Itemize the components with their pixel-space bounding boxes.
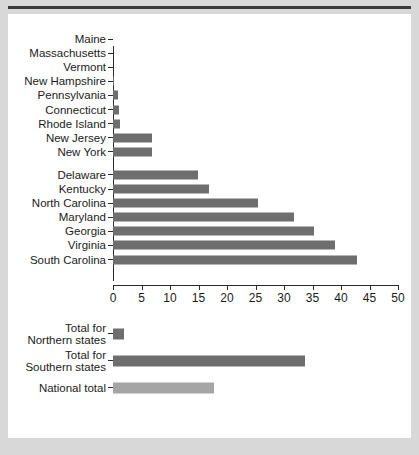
x-axis-tick: [256, 285, 257, 290]
bar-row: Maryland: [113, 210, 398, 224]
category-label: Georgia: [65, 225, 106, 238]
bar-row: South Carolina: [113, 253, 398, 267]
bar-row: Delaware: [113, 168, 398, 182]
totals-plot-area: Total for Northern statesTotal for South…: [113, 314, 398, 414]
x-axis-tick-label: 40: [334, 291, 347, 305]
x-axis-tick: [199, 285, 200, 290]
bar-row: Total for Northern states: [113, 320, 398, 347]
x-axis-tick: [341, 285, 342, 290]
x-axis-tick-label: 5: [138, 291, 145, 305]
value-bar: [113, 199, 258, 208]
x-axis-tick-label: 35: [306, 291, 319, 305]
bar-row: Georgia: [113, 224, 398, 238]
category-label: New Jersey: [46, 131, 106, 144]
x-axis-tick: [170, 285, 171, 290]
value-bar: [113, 328, 124, 339]
states-plot-area: MaineMassachusettsVermontNew HampshirePe…: [113, 28, 398, 280]
x-axis-tick-label: 0: [110, 291, 117, 305]
value-bar: [113, 105, 119, 114]
category-label: North Carolina: [32, 197, 106, 210]
value-bar: [113, 77, 114, 86]
chart-card: MaineMassachusettsVermontNew HampshirePe…: [8, 14, 411, 438]
x-axis-tick-label: 25: [249, 291, 262, 305]
value-bar: [113, 355, 305, 366]
x-axis-tick: [227, 285, 228, 290]
value-bar: [113, 91, 118, 100]
value-bar: [113, 170, 198, 179]
bar-row: Massachusetts: [113, 46, 398, 60]
category-label: Maryland: [59, 211, 106, 224]
bar-row: Virginia: [113, 238, 398, 252]
x-axis-tick: [284, 285, 285, 290]
bar-row: Connecticut: [113, 103, 398, 117]
bar-row: Total for Southern states: [113, 347, 398, 374]
bar-row: Rhode Island: [113, 117, 398, 131]
value-bar: [113, 119, 120, 128]
value-bar: [113, 241, 335, 250]
x-axis-tick: [398, 285, 399, 290]
value-bar: [113, 213, 294, 222]
x-axis-tick-label: 10: [163, 291, 176, 305]
category-label: National total: [39, 381, 106, 394]
value-bar: [113, 133, 152, 142]
category-label: Vermont: [63, 61, 106, 74]
x-axis-tick-label: 50: [391, 291, 404, 305]
category-label: Delaware: [57, 169, 106, 182]
x-axis-tick-label: 20: [220, 291, 233, 305]
category-label: Virginia: [68, 239, 106, 252]
bar-row: New York: [113, 145, 398, 159]
category-label: Total for Northern states: [27, 321, 106, 346]
value-bar: [113, 255, 357, 264]
states-panel: MaineMassachusettsVermontNew HampshirePe…: [8, 28, 411, 280]
x-axis-tick: [113, 285, 114, 290]
bar-row: Pennsylvania: [113, 88, 398, 102]
top-rule-divider: [8, 6, 411, 9]
category-label: Connecticut: [45, 103, 106, 116]
category-label: Maine: [75, 33, 106, 46]
x-axis-tick: [142, 285, 143, 290]
value-bar: [113, 185, 209, 194]
x-axis-tick-label: 45: [363, 291, 376, 305]
bar-row: New Jersey: [113, 131, 398, 145]
figure-page: MaineMassachusettsVermontNew HampshirePe…: [0, 0, 419, 455]
category-tick: [108, 53, 113, 54]
category-label: New York: [57, 146, 106, 159]
category-label: Pennsylvania: [38, 89, 106, 102]
bar-row: North Carolina: [113, 196, 398, 210]
category-label: South Carolina: [30, 253, 106, 266]
category-tick: [108, 67, 113, 68]
value-bar: [113, 382, 214, 393]
category-label: Massachusetts: [29, 47, 106, 60]
x-axis-tick: [313, 285, 314, 290]
x-axis-tick: [370, 285, 371, 290]
bar-row: Maine: [113, 32, 398, 46]
category-tick: [108, 39, 113, 40]
x-axis-tick-label: 30: [277, 291, 290, 305]
value-bar: [113, 227, 314, 236]
states-x-axis: 05101520253035404550: [113, 285, 398, 286]
value-bar: [113, 147, 152, 156]
bar-row: New Hampshire: [113, 74, 398, 88]
bar-row: National total: [113, 374, 398, 401]
bar-row: Vermont: [113, 60, 398, 74]
x-axis-tick-label: 15: [192, 291, 205, 305]
category-label: Kentucky: [59, 183, 106, 196]
totals-panel: Total for Northern statesTotal for South…: [8, 314, 411, 414]
category-label: Rhode Island: [38, 117, 106, 130]
bar-row: Kentucky: [113, 182, 398, 196]
category-label: Total for Southern states: [25, 348, 106, 373]
category-label: New Hampshire: [24, 75, 106, 88]
